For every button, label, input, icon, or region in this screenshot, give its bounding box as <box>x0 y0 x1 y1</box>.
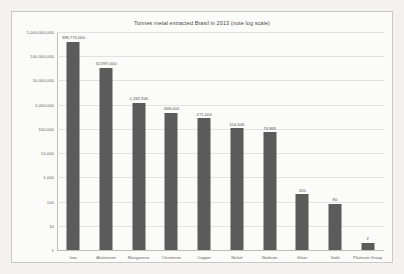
plot-area: 1,000,000,000100,000,00010,000,0001,000,… <box>57 32 384 250</box>
bar-value-label: 200 <box>299 188 306 193</box>
bar-group[interactable]: 200Silver <box>286 32 319 250</box>
y-axis-tick-label: 1,000 <box>43 175 54 180</box>
bar-group[interactable]: 104,606Nickel <box>221 32 254 250</box>
bar-group[interactable]: 2Platinum Group <box>351 32 384 250</box>
x-axis-category-label: Copper <box>197 255 211 260</box>
bar[interactable] <box>165 113 178 250</box>
y-axis-tick-label: 10,000 <box>41 151 54 156</box>
bar-group[interactable]: 32,997,000Aluminium <box>90 32 123 250</box>
bar[interactable] <box>328 204 341 250</box>
bar-value-label: 271,000 <box>197 112 212 117</box>
y-axis-tick-label: 10,000,000 <box>32 78 54 83</box>
bar-value-label: 104,606 <box>229 122 244 127</box>
x-axis-category-label: Manganese <box>128 255 150 260</box>
y-axis-tick-label: 1,000,000,000 <box>27 30 54 35</box>
chart-frame: Tonnes metal extracted Brasil in 2013 (n… <box>11 11 393 263</box>
y-axis-tick-label: 100,000,000 <box>30 54 54 59</box>
y-axis-tick-label: 100,000 <box>38 126 54 131</box>
y-axis-tick-label: 10 <box>49 223 54 228</box>
bar[interactable] <box>100 68 113 250</box>
x-axis-category-label: Nickel <box>231 255 242 260</box>
bar[interactable] <box>361 243 374 250</box>
y-axis-tick-label: 100 <box>47 199 54 204</box>
bar-value-label: 468,000 <box>164 106 179 111</box>
bar[interactable] <box>198 118 211 250</box>
bar-group[interactable]: 398,773,000Iron <box>57 32 90 250</box>
bar-group[interactable]: 271,000Copper <box>188 32 221 250</box>
bar-group[interactable]: 80Gold <box>319 32 352 250</box>
bar-value-label: 2 <box>366 236 368 241</box>
bar-value-label: 80 <box>333 197 338 202</box>
x-axis-category-label: Silver <box>297 255 307 260</box>
bar[interactable] <box>296 194 309 250</box>
bar-group[interactable]: 73,969Niobium <box>253 32 286 250</box>
x-axis-category-label: Chromium <box>162 255 181 260</box>
bar-value-label: 398,773,000 <box>62 35 85 40</box>
bar-group[interactable]: 468,000Chromium <box>155 32 188 250</box>
bar-value-label: 1,182,946 <box>129 96 148 101</box>
bar[interactable] <box>263 132 276 250</box>
bar-value-label: 32,997,000 <box>96 61 117 66</box>
x-axis-category-label: Platinum Group <box>353 255 382 260</box>
x-axis-category-label: Aluminium <box>96 255 116 260</box>
x-axis-category-label: Gold <box>331 255 340 260</box>
bar-value-label: 73,969 <box>263 126 276 131</box>
bar[interactable] <box>67 42 80 250</box>
x-axis-category-label: Iron <box>70 255 77 260</box>
y-axis-tick-label: 1,000,000 <box>35 102 54 107</box>
chart-title: Tonnes metal extracted Brasil in 2013 (n… <box>12 20 392 26</box>
bar[interactable] <box>132 103 145 250</box>
bar[interactable] <box>230 128 243 250</box>
bar-group[interactable]: 1,182,946Manganese <box>122 32 155 250</box>
gridline <box>57 250 384 251</box>
x-axis-category-label: Niobium <box>262 255 277 260</box>
y-axis-tick-label: 1 <box>52 248 54 253</box>
